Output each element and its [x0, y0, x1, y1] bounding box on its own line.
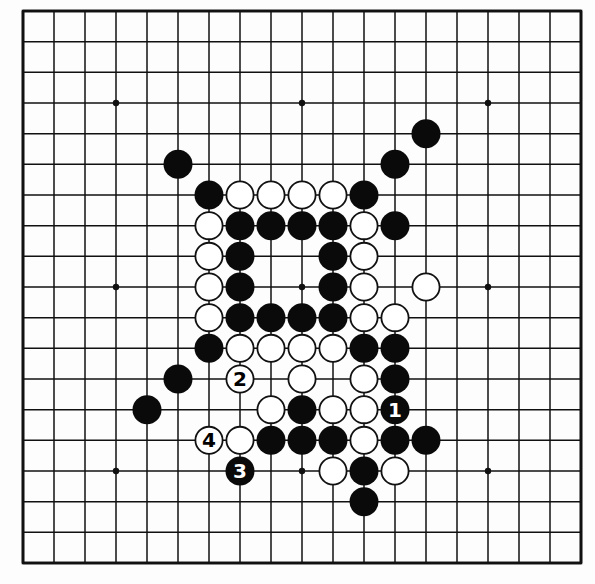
- white-stone: [257, 396, 284, 423]
- white-stone: [350, 396, 377, 423]
- black-stone: [381, 334, 410, 363]
- white-stone: [195, 273, 222, 300]
- star-point: [299, 468, 305, 474]
- black-stone: [226, 303, 255, 332]
- white-stone: [226, 335, 253, 362]
- move-number-label: 4: [202, 428, 216, 452]
- white-stone: [288, 181, 315, 208]
- black-stone: [288, 426, 317, 455]
- white-stone: [257, 181, 284, 208]
- white-stone: [195, 304, 222, 331]
- black-stone: [381, 365, 410, 394]
- white-stone: [350, 304, 377, 331]
- black-stone: [412, 426, 441, 455]
- black-stone: [319, 211, 348, 240]
- white-stone: [288, 335, 315, 362]
- move-number-label: 2: [233, 367, 247, 391]
- black-stone: [381, 211, 410, 240]
- white-stone: [350, 212, 377, 239]
- star-point: [485, 100, 491, 106]
- star-point: [113, 284, 119, 290]
- move-number-label: 1: [388, 398, 402, 422]
- white-stone: [350, 273, 377, 300]
- white-stone: [412, 273, 439, 300]
- numbered-white-stone: 2: [226, 365, 253, 392]
- black-stone: [350, 457, 379, 486]
- numbered-black-stone: 1: [381, 395, 410, 424]
- black-stone: [381, 426, 410, 455]
- black-stone: [350, 334, 379, 363]
- black-stone: [257, 211, 286, 240]
- black-stone: [350, 181, 379, 210]
- go-board-grid[interactable]: 2143: [0, 0, 595, 584]
- white-stone: [319, 396, 346, 423]
- black-stone: [319, 273, 348, 302]
- black-stone: [288, 303, 317, 332]
- star-point: [485, 284, 491, 290]
- go-board[interactable]: 2143: [0, 0, 595, 584]
- black-stone: [195, 334, 224, 363]
- white-stone: [257, 335, 284, 362]
- numbered-white-stone: 4: [195, 427, 222, 454]
- white-stone: [381, 457, 408, 484]
- numbered-black-stone: 3: [226, 457, 255, 486]
- black-stone: [319, 303, 348, 332]
- black-stone: [381, 150, 410, 179]
- white-stone: [226, 427, 253, 454]
- white-stone: [226, 181, 253, 208]
- black-stone: [257, 303, 286, 332]
- black-stone: [288, 395, 317, 424]
- black-stone: [164, 365, 193, 394]
- white-stone: [350, 243, 377, 270]
- white-stone: [319, 335, 346, 362]
- black-stone: [319, 426, 348, 455]
- black-stone: [319, 242, 348, 271]
- star-point: [113, 468, 119, 474]
- black-stone: [195, 181, 224, 210]
- star-point: [113, 100, 119, 106]
- white-stone: [319, 181, 346, 208]
- black-stone: [226, 273, 255, 302]
- black-stone: [257, 426, 286, 455]
- black-stone: [164, 150, 193, 179]
- star-point: [485, 468, 491, 474]
- white-stone: [350, 365, 377, 392]
- star-point: [299, 284, 305, 290]
- white-stone: [195, 212, 222, 239]
- black-stone: [350, 487, 379, 516]
- white-stone: [288, 365, 315, 392]
- star-point: [299, 100, 305, 106]
- white-stone: [350, 427, 377, 454]
- black-stone: [412, 119, 441, 148]
- move-number-label: 3: [233, 459, 247, 483]
- white-stone: [381, 304, 408, 331]
- black-stone: [226, 242, 255, 271]
- white-stone: [195, 243, 222, 270]
- black-stone: [226, 211, 255, 240]
- black-stone: [133, 395, 162, 424]
- black-stone: [288, 211, 317, 240]
- white-stone: [319, 457, 346, 484]
